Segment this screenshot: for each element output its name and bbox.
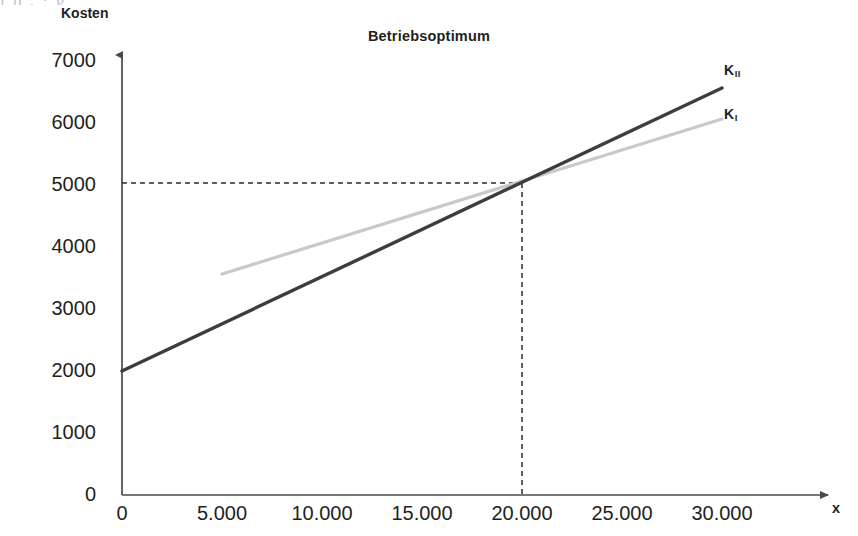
series-label-k-i-subscript: I <box>735 112 738 123</box>
series-line-k-ii <box>122 88 722 371</box>
series-label-k-i-text: K <box>724 106 734 122</box>
series-label-k-ii-subscript: II <box>735 68 741 79</box>
series-line-k-i <box>222 119 722 274</box>
series-label-k-ii-text: K <box>724 62 734 78</box>
chart-figure: l p . · g Betriebsoptimum Kosten x 7000 … <box>0 0 858 536</box>
series-label-k-i: KI <box>724 106 737 122</box>
series-label-k-ii: KII <box>724 62 740 78</box>
plot-area <box>0 0 858 536</box>
